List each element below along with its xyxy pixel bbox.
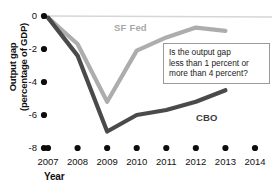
- x-tick-label: 2011: [151, 156, 181, 167]
- x-axis-title: Year: [44, 171, 64, 182]
- question-callout-box: Is the output gap less than 1 percent or…: [163, 43, 270, 84]
- x-tick-dot: [74, 145, 80, 151]
- x-tick-dot: [222, 145, 228, 151]
- series-label-sf-fed: SF Fed: [114, 22, 147, 33]
- x-tick-dot: [163, 145, 169, 151]
- x-tick-dot: [252, 145, 258, 151]
- y-tick-label: -2: [19, 43, 37, 54]
- y-tick-dot: [41, 13, 47, 19]
- y-tick-label: 0: [19, 10, 37, 21]
- y-tick-label: -8: [19, 142, 37, 153]
- output-gap-line-chart: Output gap(percentage of GDP) Year 0-2-4…: [0, 0, 279, 192]
- question-callout-text: Is the output gap less than 1 percent or…: [169, 47, 264, 79]
- y-tick-label: -6: [19, 109, 37, 120]
- y-tick-dot: [41, 79, 47, 85]
- x-tick-label: 2013: [210, 156, 240, 167]
- x-tick-dot: [134, 145, 140, 151]
- x-tick-dot: [45, 145, 51, 151]
- x-tick-label: 2007: [33, 156, 63, 167]
- x-tick-dot: [193, 145, 199, 151]
- x-tick-label: 2014: [240, 156, 270, 167]
- x-tick-label: 2008: [63, 156, 93, 167]
- y-tick-dot: [41, 112, 47, 118]
- zero-gridline: [46, 16, 272, 17]
- x-tick-label: 2012: [181, 156, 211, 167]
- x-tick-label: 2010: [122, 156, 152, 167]
- series-label-cbo: CBO: [196, 112, 218, 123]
- y-tick-dot: [41, 46, 47, 52]
- y-tick-label: -4: [19, 76, 37, 87]
- x-tick-label: 2009: [92, 156, 122, 167]
- x-tick-dot: [104, 145, 110, 151]
